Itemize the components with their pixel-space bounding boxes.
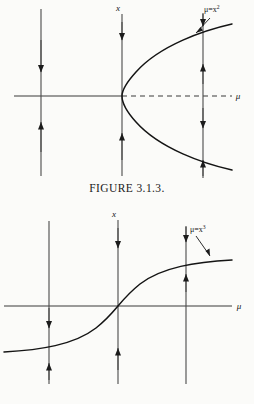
scanned-figure-page: x μ μ=x2 FIGURE 3.1.3. <box>0 0 254 404</box>
curve-equation-exponent: 3 <box>203 224 206 230</box>
x-axis-label: x <box>115 3 120 13</box>
mu-axis-label: μ <box>235 91 241 101</box>
figure-3-1-4: x μ μ=x3 FIGURE 3.1.4. <box>0 200 254 404</box>
curve-label-leader-arrowhead <box>206 249 211 257</box>
bifurcation-diagram-cubic: x μ μ=x3 <box>0 200 254 386</box>
curve-equation-base: μ=x <box>190 225 203 234</box>
mu-axis-label: μ <box>236 301 242 311</box>
curve-equation-label: μ=x3 <box>190 224 206 234</box>
x-axis-label: x <box>111 209 116 219</box>
figure-3-1-3: x μ μ=x2 FIGURE 3.1.3. <box>0 0 254 200</box>
curve-equation-base: μ=x <box>204 5 217 14</box>
figure-caption-3-1-3: FIGURE 3.1.3. <box>0 182 254 194</box>
bifurcation-diagram-saddle-node: x μ μ=x2 <box>0 0 254 180</box>
parabola-curve <box>122 24 232 170</box>
curve-equation-label: μ=x2 <box>204 4 220 14</box>
curve-equation-exponent: 2 <box>217 4 220 10</box>
